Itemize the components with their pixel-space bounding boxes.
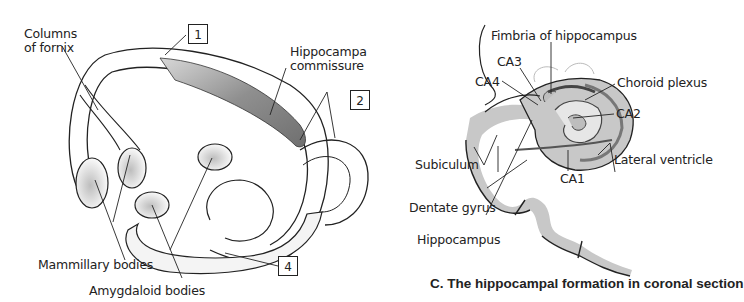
label-lateral-ventricle: Lateral ventricle	[614, 153, 713, 167]
label-choroid-plexus: Choroid plexus	[617, 76, 707, 90]
label-hippocampus: Hippocampus	[417, 233, 500, 247]
amygdaloid-body-upper	[198, 144, 232, 170]
label-ca3: CA3	[497, 55, 522, 69]
mammillary-body-right	[118, 148, 146, 188]
mammillary-body-left	[76, 158, 108, 208]
label-mammillary-bodies: Mammillary bodies	[38, 258, 153, 272]
figure-caption-c: C. The hippocampal formation in coronal …	[430, 276, 744, 291]
label-dentate-gyrus: Dentate gyrus	[409, 201, 496, 215]
hippocampal-commissure	[160, 58, 306, 147]
label-ca4: CA4	[475, 75, 500, 89]
label-amygdaloid-bodies: Amygdaloid bodies	[89, 284, 205, 298]
numbered-box-2: 2	[350, 90, 370, 110]
label-columns-of-fornix-line1: Columns	[24, 27, 77, 41]
label-fimbria-of-hippocampus: Fimbria of hippocampus	[491, 29, 637, 43]
numbered-box-4: 4	[278, 256, 298, 276]
label-columns-of-fornix-line2: of fornix	[24, 41, 74, 55]
label-subiculum: Subiculum	[415, 158, 479, 172]
label-hippocampa-commissure-line1: Hippocampa	[290, 45, 367, 59]
label-hippocampa-commissure-line2: commissure	[290, 59, 364, 73]
label-ca1: CA1	[560, 172, 585, 186]
label-ca2: CA2	[616, 107, 641, 121]
numbered-box-1: 1	[188, 24, 208, 44]
